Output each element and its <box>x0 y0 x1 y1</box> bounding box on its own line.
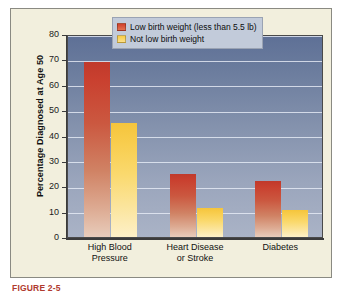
y-axis-tick-label: 20 <box>39 182 59 191</box>
y-axis-tick-label: 70 <box>39 55 59 64</box>
figure-caption: FIGURE 2-5 <box>12 283 61 292</box>
legend-swatch-icon <box>117 23 126 31</box>
plot-area <box>67 35 323 238</box>
y-axis-tick-label: 0 <box>39 233 59 242</box>
x-axis-category-label: Heart Diseaseor Stroke <box>152 242 237 263</box>
y-axis-tick-label: 50 <box>39 106 59 115</box>
chart-legend: Low birth weight (less than 5.5 lb) Not … <box>112 17 263 49</box>
legend-item: Not low birth weight <box>117 33 257 44</box>
x-axis-line <box>66 238 324 240</box>
bar <box>282 210 308 237</box>
legend-item-label: Not low birth weight <box>130 34 204 44</box>
legend-item-label: Low birth weight (less than 5.5 lb) <box>130 22 257 32</box>
bar <box>111 123 137 237</box>
legend-swatch-icon <box>117 35 126 43</box>
bar <box>84 62 110 237</box>
bar <box>197 208 223 237</box>
chart-panel: Percentage Diagnosed at Age 50 010203040… <box>10 8 332 278</box>
y-axis-tick-label: 10 <box>39 208 59 217</box>
bar <box>170 174 196 237</box>
bar <box>255 181 281 237</box>
figure-container: Percentage Diagnosed at Age 50 010203040… <box>0 0 344 292</box>
x-axis-category-label: Diabetes <box>238 242 323 253</box>
y-axis-tick-label: 40 <box>39 132 59 141</box>
y-axis-tick-label: 30 <box>39 157 59 166</box>
legend-item: Low birth weight (less than 5.5 lb) <box>117 22 257 33</box>
y-axis-tick-label: 60 <box>39 81 59 90</box>
y-axis-tick-label: 80 <box>39 30 59 39</box>
x-axis-category-label: High BloodPressure <box>67 242 152 263</box>
